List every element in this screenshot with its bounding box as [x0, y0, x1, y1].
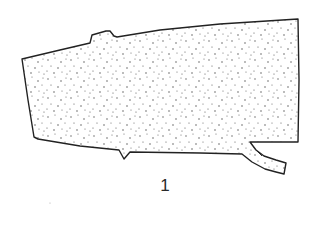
- artifact-drawing: [0, 0, 323, 239]
- speck: [49, 202, 50, 203]
- figure-number-label: 1: [158, 176, 172, 196]
- artifact-outline: [22, 19, 299, 174]
- artifact-outline-svg: [0, 0, 323, 239]
